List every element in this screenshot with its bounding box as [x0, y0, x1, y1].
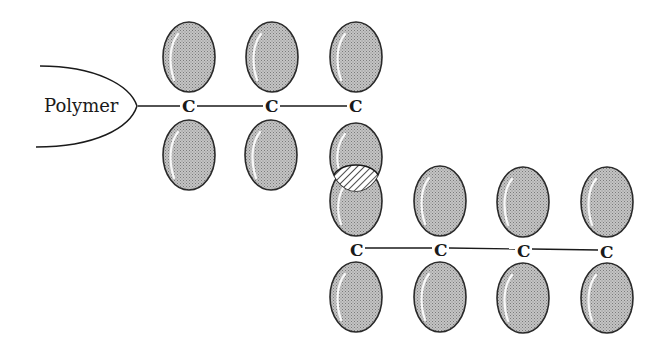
carbon-atom: C	[182, 96, 196, 116]
carbon-atom: C	[434, 240, 448, 260]
orbital-lobe	[497, 167, 549, 237]
overlap-orbitals	[330, 123, 382, 236]
lower-chain-bonds	[365, 248, 598, 250]
orbital-lobe	[330, 22, 382, 92]
orbital-lobe	[245, 120, 297, 190]
orbital-lobe	[414, 262, 466, 332]
orbital-lobe	[497, 263, 549, 333]
orbital-lobe	[163, 120, 215, 190]
carbon-atom: C	[265, 96, 279, 116]
orbital-lobe	[414, 166, 466, 236]
lower-chain-atoms: C C C C	[349, 240, 614, 262]
orbital-lobe	[163, 22, 215, 92]
orbital-lobe	[581, 167, 633, 237]
carbon-atom: C	[600, 242, 614, 262]
carbon-atom: C	[349, 96, 363, 116]
orbital-lobe	[581, 263, 633, 333]
carbon-atom: C	[350, 240, 364, 260]
orbital-lobe	[246, 22, 298, 92]
polymer-group: Polymer	[36, 66, 137, 147]
diagram-canvas: Polymer	[0, 0, 667, 360]
polymer-label: Polymer	[44, 95, 119, 116]
carbon-atom: C	[517, 241, 531, 261]
orbital-lobe	[330, 262, 382, 332]
